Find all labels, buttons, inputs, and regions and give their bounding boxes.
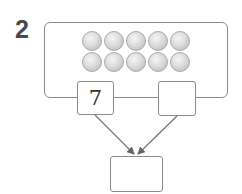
arrow-left-icon	[95, 115, 134, 154]
whole-box[interactable]	[110, 156, 163, 192]
part-box-right[interactable]	[158, 81, 196, 116]
part-box-left[interactable]: 7	[77, 81, 114, 115]
arrow-right-icon	[138, 116, 177, 154]
